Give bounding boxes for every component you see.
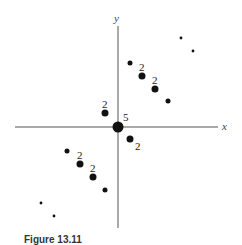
- y-axis-label: y: [113, 12, 119, 24]
- data-point: [102, 110, 109, 117]
- data-point: [139, 73, 146, 80]
- data-point-small: [192, 50, 195, 53]
- data-point: [166, 99, 171, 104]
- count-label: 2: [152, 74, 158, 86]
- count-label: 2: [102, 98, 108, 110]
- count-label: 2: [135, 140, 141, 152]
- data-point: [65, 149, 70, 154]
- x-axis-label: x: [221, 120, 227, 132]
- data-point: [127, 136, 134, 143]
- data-point: [103, 188, 108, 193]
- figure-caption: Figure 13.11: [24, 234, 82, 245]
- origin-count-label: 5: [123, 111, 129, 123]
- data-point-small: [40, 202, 43, 205]
- origin-point: [113, 122, 124, 133]
- data-point: [128, 61, 133, 66]
- data-point-small: [180, 37, 183, 40]
- count-label: 2: [139, 61, 145, 73]
- data-point: [77, 161, 84, 168]
- data-point-small: [53, 215, 56, 218]
- count-label: 2: [90, 162, 96, 174]
- data-point: [90, 174, 97, 181]
- data-point: [152, 86, 159, 93]
- count-label: 2: [77, 149, 83, 161]
